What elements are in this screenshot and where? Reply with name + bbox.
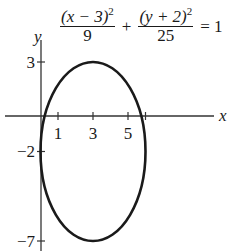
x-tick-label-5: 5	[124, 124, 133, 143]
x-axis-label: x	[218, 106, 227, 125]
ellipse-graph: y x 1 3 5 3 −2 −7	[0, 0, 247, 251]
ellipse-curve	[41, 62, 146, 241]
x-tick-label-1: 1	[54, 124, 63, 143]
y-tick-label-3: 3	[27, 53, 36, 72]
y-axis-label: y	[32, 27, 42, 46]
x-tick-label-3: 3	[89, 124, 98, 143]
y-tick-label-neg2: −2	[17, 142, 35, 161]
y-tick-label-neg7: −7	[17, 232, 36, 251]
